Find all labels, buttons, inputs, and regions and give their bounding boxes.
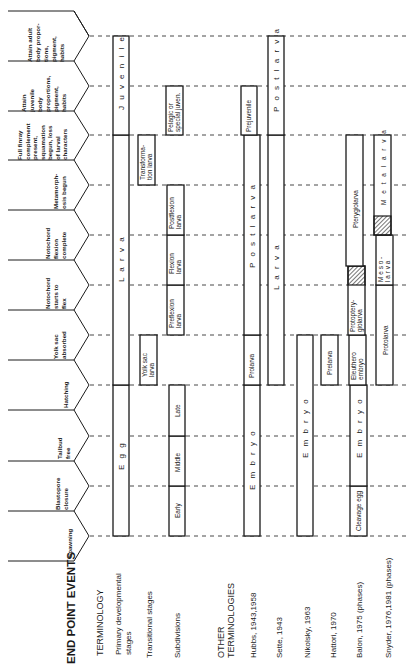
row-label-primary: Primary developmental stages <box>114 571 133 655</box>
event-labels: Attain adult body propor- tions, pigment… <box>16 22 73 558</box>
svg-text:L a r v a: L a r v a <box>272 243 281 290</box>
svg-text:Prolarva: Prolarva <box>248 353 255 378</box>
row-headings: END POINT EVENTS TERMINOLOGY Primary dev… <box>65 552 393 664</box>
hatched-transition-balon <box>348 266 365 285</box>
event-label-tailbud: Tailbud free <box>56 436 71 459</box>
row-hattori: Prelarva <box>321 335 338 385</box>
row-subdivisions: Early Middle Late Preflexion larva Flexi… <box>167 185 185 536</box>
row-label-subdivisions: Subdivisions <box>173 613 182 658</box>
row-label-hubbs: Hubbs, 1943,1958 <box>249 592 258 658</box>
section-other-terminologies: OTHER TERMINOLOGIES <box>216 583 236 658</box>
svg-text:Early: Early <box>174 502 182 518</box>
row-label-snyder: Snyder, 1976,1981 (phases) <box>384 557 393 658</box>
svg-text:L a r v a: L a r v a <box>117 235 126 282</box>
svg-text:Middle: Middle <box>174 452 181 472</box>
svg-text:Protolarva: Protolarva <box>382 325 389 355</box>
svg-text:E g g: E g g <box>117 441 126 470</box>
svg-text:Cleavage egg: Cleavage egg <box>355 491 363 531</box>
svg-text:J u v e n i l e: J u v e n i l e <box>117 35 126 110</box>
developmental-terminology-diagram: Attain adult body propor- tions, pigment… <box>0 0 420 668</box>
event-label-metamorphosis: Metamorph- osis begun <box>52 172 67 209</box>
event-label-juvenile: Attain juvenile body proportions, pigmen… <box>20 74 67 113</box>
svg-text:Pterygiolarva: Pterygiolarva <box>352 190 360 228</box>
event-label-notochord-complete: Notochord flexion complete <box>44 226 67 259</box>
row-snyder: Protolarva M e s o - l a r v a M e t a l… <box>374 128 393 385</box>
svg-text:Prejuvenile: Prejuvenile <box>245 99 253 132</box>
hatched-transition-snyder <box>374 216 391 235</box>
svg-text:Late: Late <box>174 404 181 417</box>
row-nikolsky: E m b r y o <box>297 335 313 536</box>
svg-text:P o s t l a r v a: P o s t l a r v a <box>248 183 257 268</box>
row-balon: Cleavage egg E m b r y o Eleuthero embry… <box>346 135 367 536</box>
svg-text:P o s t l a r v a: P o s t l a r v a <box>272 27 281 112</box>
svg-text:M e t a l a r v a: M e t a l a r v a <box>380 128 387 205</box>
row-label-balon: Balon, 1975 (phases) <box>355 582 364 658</box>
event-label-hatching: Hatching <box>62 381 69 408</box>
event-label-finray: Full finray complement present, squamati… <box>16 122 68 160</box>
section-terminology: TERMINOLOGY <box>95 589 105 656</box>
row-label-sette: Sette, 1943 <box>275 617 284 658</box>
svg-text:E m b r y o: E m b r y o <box>355 397 364 458</box>
row-label-hattori: Hattori, 1970 <box>329 612 338 658</box>
svg-text:Prelarva: Prelarva <box>326 350 333 375</box>
header-end-point-events: END POINT EVENTS <box>65 552 77 664</box>
row-sette: L a r v a P o s t l a r v a <box>268 27 284 385</box>
row-primary-stages: E g g L a r v a J u v e n i l e <box>113 35 129 536</box>
row-label-nikolsky: Nikolsky, 1963 <box>303 606 312 658</box>
svg-text:E m b r y o: E m b r y o <box>301 397 310 458</box>
event-label-adult: Attain adult body propor- tions, pigment… <box>26 22 65 62</box>
svg-text:E m b r y o: E m b r y o <box>248 429 257 490</box>
event-label-blastopore: Blastopore closure <box>54 476 69 510</box>
row-hubbs: E m b r y o Prolarva P o s t l a r v a P… <box>241 86 260 536</box>
event-label-notochord-start: Notochord starts to flex <box>44 276 67 309</box>
event-label-yolk: Yolk sac absorbed <box>52 331 67 359</box>
row-label-transitional: Transitional stages <box>145 591 154 658</box>
